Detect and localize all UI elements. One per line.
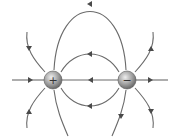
arrow-icon bbox=[87, 1, 92, 7]
axis-field-line bbox=[12, 77, 168, 83]
inner-lower-field-line bbox=[61, 88, 119, 109]
arrow-icon bbox=[87, 51, 92, 57]
arrow-icon bbox=[26, 46, 32, 51]
negative-sign: − bbox=[122, 74, 131, 87]
arrow-icon bbox=[148, 109, 154, 114]
arrow-icon bbox=[88, 77, 93, 83]
positive-charge: + bbox=[44, 71, 62, 89]
arrow-icon bbox=[148, 77, 153, 83]
inner-upper-field-line bbox=[61, 51, 119, 72]
outer-loop-field-line bbox=[54, 1, 126, 70]
negative-charge: − bbox=[118, 71, 136, 89]
arrow-icon bbox=[87, 103, 92, 109]
arrow-icon bbox=[28, 77, 33, 83]
positive-sign: + bbox=[48, 74, 57, 87]
field-line-diagram: + − bbox=[0, 0, 178, 138]
arrow-icon bbox=[26, 109, 32, 114]
arrow-icon bbox=[148, 46, 154, 51]
